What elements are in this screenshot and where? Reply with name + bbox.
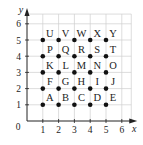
point-label: N (93, 60, 101, 71)
data-point (56, 70, 61, 75)
point-label: E (110, 92, 116, 103)
data-point (88, 70, 93, 75)
coordinate-grid-chart: 1234561234560xy ABCDEFGHIJKLMNOPQRSTUVWX… (0, 0, 143, 145)
data-point (104, 86, 109, 91)
data-point (72, 54, 77, 59)
point-label: R (78, 44, 85, 55)
y-tick-label: 1 (16, 100, 21, 110)
x-tick-label: 4 (88, 125, 93, 135)
data-point (56, 86, 61, 91)
point-label: W (76, 28, 86, 39)
data-point (104, 38, 109, 43)
data-point (41, 54, 46, 59)
y-axis-arrow-icon (25, 8, 30, 16)
point-label: G (62, 76, 70, 87)
point-label: D (93, 92, 101, 103)
point-label: Y (109, 28, 117, 39)
data-point (88, 54, 93, 59)
point-label: I (95, 76, 99, 87)
data-point (56, 38, 61, 43)
x-tick-label: 2 (56, 125, 61, 135)
data-point (41, 70, 46, 75)
data-point (104, 103, 109, 108)
data-point (72, 103, 77, 108)
origin-label: 0 (16, 122, 21, 132)
point-label: C (78, 92, 85, 103)
point-label: T (110, 44, 117, 55)
y-tick-label: 6 (16, 19, 21, 29)
data-point (104, 54, 109, 59)
data-point (88, 38, 93, 43)
data-point (56, 103, 61, 108)
point-label: P (47, 44, 53, 55)
data-point (104, 70, 109, 75)
data-point (88, 103, 93, 108)
data-point (88, 86, 93, 91)
x-tick-label: 6 (119, 125, 124, 135)
x-tick-label: 5 (104, 125, 109, 135)
point-label: X (93, 28, 101, 39)
point-label: J (111, 76, 115, 87)
point-label: H (78, 76, 86, 87)
x-tick-label: 1 (40, 125, 45, 135)
x-tick-label: 3 (72, 125, 77, 135)
point-label: L (62, 60, 68, 71)
point-label: V (62, 28, 70, 39)
point-label: O (109, 60, 117, 71)
point-label: A (46, 92, 54, 103)
y-tick-label: 3 (16, 68, 21, 78)
y-tick-label: 5 (16, 36, 21, 46)
point-label: Q (62, 44, 70, 55)
data-point (41, 38, 46, 43)
y-axis-label: y (18, 4, 24, 15)
point-label: B (62, 92, 69, 103)
y-tick-label: 4 (16, 52, 21, 62)
point-label: M (77, 60, 87, 71)
data-point (56, 54, 61, 59)
point-label: S (94, 44, 100, 55)
data-point (72, 86, 77, 91)
data-point (41, 103, 46, 108)
point-label: K (46, 60, 54, 71)
data-point (41, 86, 46, 91)
y-tick-label: 2 (16, 84, 21, 94)
point-label: U (46, 28, 54, 39)
point-label: F (47, 76, 53, 87)
x-axis-label: x (131, 123, 137, 134)
